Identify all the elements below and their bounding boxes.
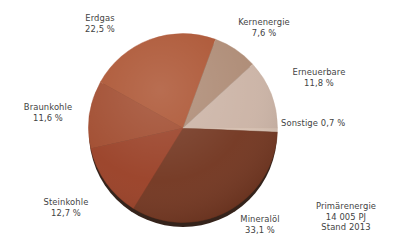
slice-label-erneuerbare-name: Erneuerbare — [263, 67, 375, 78]
pie-chart-figure: Erdgas 22,5 % Kernenergie 7,6 % Erneuerb… — [0, 0, 395, 249]
slice-label-erdgas-value: 22,5 % — [55, 24, 145, 35]
total-year: Stand 2013 — [300, 222, 392, 233]
slice-label-erneuerbare: Erneuerbare 11,8 % — [263, 67, 375, 88]
chart-total-annotation: Primärenergie 14 005 PJ Stand 2013 — [300, 201, 392, 233]
slice-label-braunkohle: Braunkohle 11,6 % — [2, 102, 94, 123]
slice-label-steinkohle-name: Steinkohle — [20, 197, 112, 208]
slice-label-steinkohle: Steinkohle 12,7 % — [20, 197, 112, 218]
slice-label-erneuerbare-value: 11,8 % — [263, 78, 375, 89]
slice-label-mineraloel-value: 33,1 % — [215, 225, 305, 236]
slice-label-kernenergie: Kernenergie 7,6 % — [214, 17, 314, 38]
total-label: Primärenergie — [300, 201, 392, 212]
pie-gloss-overlay — [89, 34, 278, 223]
slice-label-steinkohle-value: 12,7 % — [20, 208, 112, 219]
slice-label-kernenergie-name: Kernenergie — [214, 17, 314, 28]
pie-slices-svg — [88, 33, 278, 223]
slice-label-braunkohle-name: Braunkohle — [2, 102, 94, 113]
slice-label-erdgas-name: Erdgas — [55, 13, 145, 24]
slice-label-kernenergie-value: 7,6 % — [214, 28, 314, 39]
pie-chart-graphic — [88, 33, 278, 227]
slice-label-sonstige: Sonstige 0,7 % — [281, 118, 391, 129]
slice-label-mineraloel-name: Mineralöl — [215, 214, 305, 225]
slice-label-mineraloel: Mineralöl 33,1 % — [215, 214, 305, 235]
slice-label-sonstige-text: Sonstige 0,7 % — [281, 118, 391, 129]
slice-label-erdgas: Erdgas 22,5 % — [55, 13, 145, 34]
slice-label-braunkohle-value: 11,6 % — [2, 113, 94, 124]
total-value: 14 005 PJ — [300, 212, 392, 223]
